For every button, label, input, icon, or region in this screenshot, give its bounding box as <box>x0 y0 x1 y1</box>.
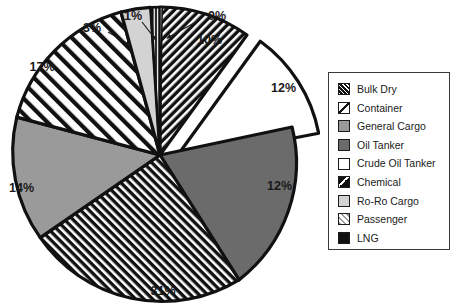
legend-item-passenger[interactable]: Passenger <box>338 210 449 229</box>
legend-item-chemical[interactable]: Chemical <box>338 173 449 192</box>
legend-item-crude-oil-tanker[interactable]: Crude Oil Tanker <box>338 154 449 173</box>
label-bulk-dry: 10% <box>197 33 222 47</box>
legend-label: Ro-Ro Cargo <box>357 196 419 207</box>
chemical-swatch-icon <box>338 176 350 188</box>
passenger-swatch-icon <box>338 213 350 225</box>
label-ro-ro-cargo: 3% <box>83 21 101 35</box>
legend-label: General Cargo <box>357 121 426 132</box>
bulk-dry-swatch-icon <box>338 83 350 95</box>
ro-ro-cargo-swatch-icon <box>338 195 350 207</box>
legend-label: Container <box>357 103 403 114</box>
pie-slices <box>13 7 319 301</box>
label-general-cargo: 14% <box>9 181 34 195</box>
label-container: 12% <box>271 81 296 95</box>
legend-item-container[interactable]: Container <box>338 99 449 118</box>
legend-label: Crude Oil Tanker <box>357 158 436 169</box>
label-crude-oil-tanker: 0% <box>208 9 226 23</box>
legend-item-oil-tanker[interactable]: Oil Tanker <box>338 136 449 155</box>
pie-chart-figure: 10% 12% 12% 31% 14% 17% 3% 1% 0% Bulk Dr… <box>0 0 458 304</box>
legend-item-lng[interactable]: LNG <box>338 229 449 248</box>
legend-item-general-cargo[interactable]: General Cargo <box>338 117 449 136</box>
label-chemical: 31% <box>150 284 175 298</box>
legend-label: Chemical <box>357 177 401 188</box>
legend-label: LNG <box>357 233 379 244</box>
chart-legend: Bulk Dry Container General Cargo Oil Tan… <box>328 72 450 250</box>
label-passenger: 17% <box>29 60 54 74</box>
legend-label: Passenger <box>357 214 407 225</box>
container-swatch-icon <box>338 102 350 114</box>
legend-label: Bulk Dry <box>357 84 397 95</box>
crude-oil-tanker-swatch-icon <box>338 158 350 170</box>
legend-label: Oil Tanker <box>357 140 404 151</box>
label-oil-tanker: 12% <box>267 179 292 193</box>
pie-chart-canvas: 10% 12% 12% 31% 14% 17% 3% 1% 0% <box>0 0 320 304</box>
lng-swatch-icon <box>338 232 350 244</box>
general-cargo-swatch-icon <box>338 120 350 132</box>
legend-item-bulk-dry[interactable]: Bulk Dry <box>338 80 449 99</box>
label-lng: 1% <box>124 9 142 23</box>
oil-tanker-swatch-icon <box>338 139 350 151</box>
legend-item-ro-ro-cargo[interactable]: Ro-Ro Cargo <box>338 192 449 211</box>
